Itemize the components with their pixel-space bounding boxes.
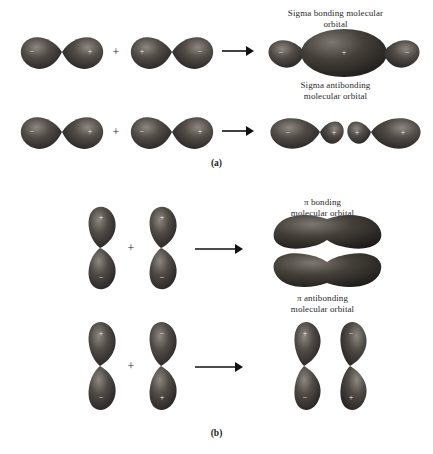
pi-antibonding-row: + − + − + + − [0, 320, 433, 420]
sigma-antibonding-row: − + + − + − + [0, 110, 433, 156]
caption-pi-antibonding: π antibonding molecular orbital [255, 293, 390, 315]
orbital-sign: + [301, 330, 309, 338]
p-orbital-8: − + [143, 320, 179, 412]
reaction-arrow [222, 44, 254, 62]
p-orbital-1: − + [18, 30, 106, 74]
caption-sigma-antibonding: Sigma antibonding molecular orbital [243, 80, 428, 102]
pi-bonding-row: + − + + − [0, 205, 433, 295]
operator-plus: + [125, 242, 137, 254]
sigma-antibonding-mo: − + + + [268, 112, 423, 152]
panel-label-b: (b) [0, 428, 433, 438]
pi-bonding-mo [271, 213, 384, 289]
p-orbital-2: + − [128, 30, 216, 74]
orbital-sign: + [158, 214, 166, 222]
orbital-sign: − [158, 274, 166, 282]
p-orbital-3: − + [18, 110, 106, 154]
orbital-sign: − [347, 330, 355, 338]
orbital-sign: − [28, 48, 36, 56]
sigma-bonding-row: − + + + − − + − [0, 30, 433, 80]
orbital-sign: − [28, 128, 36, 136]
operator-plus: + [110, 126, 122, 138]
p-orbital-7: + − [82, 320, 118, 412]
orbital-sign: + [97, 214, 105, 222]
p-orbital-6: + − [143, 205, 179, 291]
p-orbital-5: + − [82, 205, 118, 291]
orbital-sign: + [340, 49, 348, 57]
orbital-sign: + [330, 129, 338, 137]
reaction-arrow [222, 124, 254, 142]
orbital-sign: + [86, 128, 94, 136]
orbital-sign: − [403, 49, 411, 57]
reaction-arrow [195, 360, 243, 378]
orbital-sign: + [86, 48, 94, 56]
orbital-sign: − [277, 49, 285, 57]
orbital-sign: + [158, 394, 166, 402]
reaction-arrow [195, 242, 243, 260]
orbital-sign: − [301, 394, 309, 402]
orbital-sign: − [196, 48, 204, 56]
orbital-sign: − [138, 128, 146, 136]
orbital-sign: − [97, 274, 105, 282]
orbital-sign: + [399, 129, 407, 137]
orbital-sign: + [347, 394, 355, 402]
orbital-sign: + [97, 330, 105, 338]
operator-plus: + [110, 46, 122, 58]
orbital-sign: − [284, 129, 292, 137]
orbital-sign: − [158, 330, 166, 338]
molecular-orbital-figure: Sigma bonding molecular orbital − + + + … [0, 0, 433, 454]
operator-plus: + [125, 360, 137, 372]
orbital-sign: + [138, 48, 146, 56]
orbital-sign: + [353, 129, 361, 137]
p-orbital-4: − + [128, 110, 216, 154]
orbital-sign: − [97, 394, 105, 402]
pi-antibonding-mo: + − − + [290, 320, 366, 412]
sigma-bonding-mo: − + − [265, 27, 423, 79]
panel-label-a: (a) [0, 158, 433, 168]
orbital-sign: + [196, 128, 204, 136]
